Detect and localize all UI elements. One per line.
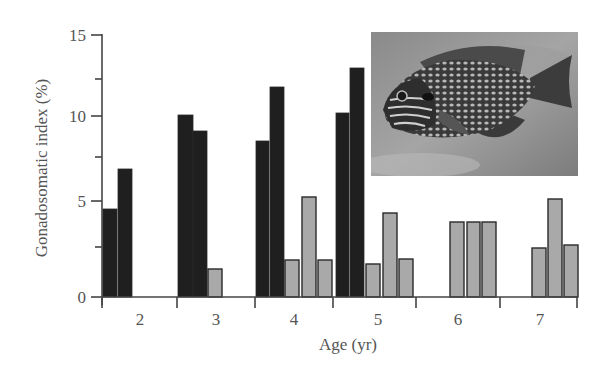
x-tick-label: 2 bbox=[136, 310, 145, 329]
bar bbox=[482, 222, 496, 297]
x-tick-label: 5 bbox=[374, 310, 383, 329]
bar bbox=[208, 269, 222, 297]
x-tick-label: 4 bbox=[290, 310, 299, 329]
bar bbox=[564, 245, 578, 297]
bar bbox=[302, 197, 316, 297]
bar bbox=[318, 260, 332, 297]
bar bbox=[350, 68, 364, 297]
bar bbox=[383, 213, 397, 297]
bar bbox=[532, 248, 546, 297]
bar bbox=[270, 87, 284, 297]
y-tick-label: 10 bbox=[69, 107, 86, 126]
fish-photo-inset bbox=[360, 32, 578, 177]
bar bbox=[103, 209, 117, 297]
bar bbox=[548, 199, 562, 297]
y-tick-label: 15 bbox=[69, 26, 86, 45]
x-tick-label: 7 bbox=[536, 310, 545, 329]
x-axis-label: Age (yr) bbox=[319, 335, 377, 354]
bar bbox=[285, 260, 299, 297]
y-tick-label: 5 bbox=[78, 192, 87, 211]
bar bbox=[178, 115, 193, 297]
bar bbox=[336, 113, 349, 297]
bar bbox=[450, 222, 464, 297]
x-tick-label: 3 bbox=[212, 310, 221, 329]
bar bbox=[366, 264, 380, 297]
bar bbox=[399, 259, 413, 297]
y-tick-label: 0 bbox=[78, 288, 87, 307]
y-axis: 0 5 10 15 Gonadosomatic index (%) bbox=[32, 26, 102, 307]
bar bbox=[118, 169, 132, 297]
bar bbox=[193, 131, 207, 297]
bar bbox=[467, 222, 480, 297]
x-tick-label: 6 bbox=[454, 310, 463, 329]
gsi-bar-chart: 0 5 10 15 Gonadosomatic index (%) bbox=[0, 0, 607, 375]
x-axis: 2 3 4 5 6 7 Age (yr) bbox=[102, 297, 578, 354]
y-axis-label: Gonadosomatic index (%) bbox=[32, 79, 51, 257]
bar bbox=[256, 141, 269, 297]
